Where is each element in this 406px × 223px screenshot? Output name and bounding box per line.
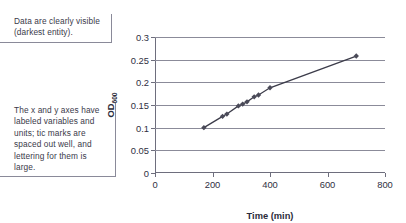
callout-axis-labeling: The x and y axes have labeled variables … [0, 103, 116, 177]
y-axis-tick-label: 0.15 [131, 100, 149, 111]
y-axis-title-subscript: 600 [111, 93, 118, 104]
figure-page: Data are clearly visible (darkest entity… [0, 0, 406, 223]
x-axis-tick-label: 400 [262, 179, 278, 190]
callout-data-visibility: Data are clearly visible (darkest entity… [0, 14, 112, 43]
y-axis-tick-label: 0.05 [131, 145, 149, 156]
y-axis-tick-label: 0 [144, 168, 149, 179]
x-axis-tick [213, 173, 214, 177]
series-line [204, 56, 356, 128]
x-axis-tick-label: 200 [205, 179, 221, 190]
y-axis-tick-label: 0.2 [136, 77, 149, 88]
growth-curve-chart: 00.050.10.150.20.250.3 0200400600800 Tim… [104, 18, 406, 223]
y-axis-title-text: OD [106, 104, 116, 118]
data-point-marker [354, 53, 359, 58]
data-series-layer [155, 37, 385, 173]
y-axis-tick-label: 0.25 [131, 54, 149, 65]
x-axis-tick [385, 173, 386, 177]
x-axis-tick-label: 0 [152, 179, 157, 190]
y-axis-title: OD600 [106, 93, 118, 118]
x-axis-tick-label: 600 [320, 179, 336, 190]
plot-area: 00.050.10.150.20.250.3 0200400600800 [155, 37, 385, 173]
y-axis-tick-label: 0.1 [136, 122, 149, 133]
x-axis-tick [270, 173, 271, 177]
y-axis-tick-label: 0.3 [136, 32, 149, 43]
x-axis-tick [155, 173, 156, 177]
x-axis-title: Time (min) [155, 211, 385, 221]
x-axis-tick-label: 800 [377, 179, 393, 190]
x-axis-tick [328, 173, 329, 177]
